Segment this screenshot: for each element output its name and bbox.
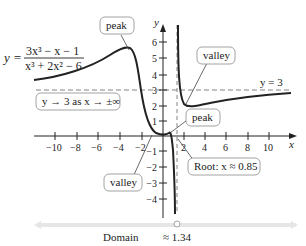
svg-text:−1: −1 (146, 146, 157, 157)
svg-text:y =: y = (2, 50, 22, 65)
svg-text:3x³ − x − 1: 3x³ − x − 1 (26, 44, 79, 58)
svg-text:1: 1 (152, 116, 157, 127)
svg-text:valley: valley (203, 49, 230, 61)
svg-text:3: 3 (152, 85, 157, 96)
svg-text:10: 10 (263, 142, 273, 153)
svg-text:−2: −2 (146, 162, 157, 173)
svg-text:x³ + 2x² − 6: x³ + 2x² − 6 (25, 59, 82, 73)
chart-canvas: Domain ≈ 1.34 (0, 0, 306, 246)
excluded-value-label: ≈ 1.34 (163, 231, 192, 243)
svg-text:8: 8 (245, 142, 250, 153)
svg-text:−2: −2 (135, 142, 146, 153)
callout-peak-center: peak (186, 109, 220, 126)
svg-text:−8: −8 (70, 142, 81, 153)
excluded-point-marker (174, 221, 180, 227)
svg-text:−10: −10 (46, 142, 62, 153)
horizontal-asymptote-label: y = 3 (260, 76, 283, 88)
svg-text:2: 2 (152, 101, 157, 112)
y-axis-label: y (153, 16, 159, 28)
x-axis (34, 132, 297, 140)
callout-valley-center: valley (104, 174, 142, 191)
svg-text:6: 6 (152, 37, 157, 48)
domain-number-line (34, 221, 298, 229)
svg-text:4: 4 (202, 142, 207, 153)
curve-right-branch (178, 25, 291, 106)
svg-text:valley: valley (110, 176, 137, 188)
svg-text:6: 6 (223, 142, 228, 153)
svg-text:y → 3 as x → ±∞: y → 3 as x → ±∞ (42, 95, 120, 107)
svg-text:−6: −6 (91, 142, 102, 153)
equation: y = 3x³ − x − 1 x³ + 2x² − 6 (2, 44, 84, 73)
svg-text:−3: −3 (146, 178, 157, 189)
svg-text:−4: −4 (146, 194, 157, 205)
y-axis (159, 24, 167, 218)
svg-text:4: 4 (152, 70, 157, 81)
svg-text:peak: peak (192, 111, 213, 123)
svg-text:peak: peak (106, 19, 127, 31)
x-axis-label: x (288, 138, 294, 150)
svg-text:Root: x ≈ 0.85: Root: x ≈ 0.85 (194, 160, 258, 172)
svg-text:5: 5 (152, 53, 157, 64)
svg-text:−4: −4 (113, 142, 124, 153)
callout-root: Root: x ≈ 0.85 (188, 158, 260, 175)
callout-peak-left: peak (100, 17, 134, 34)
domain-label: Domain (103, 231, 139, 243)
callout-valley-right: valley (197, 47, 235, 64)
callout-limit: y → 3 as x → ±∞ (36, 93, 120, 110)
